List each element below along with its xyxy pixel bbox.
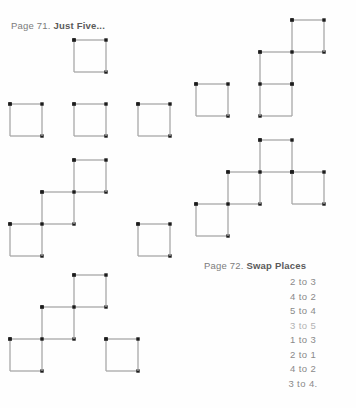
match-head xyxy=(226,82,229,85)
heading-page-72-title: Swap Places xyxy=(246,260,306,271)
match-head xyxy=(258,138,261,141)
swap-list-item: 1 to 3 xyxy=(255,333,351,348)
match-head xyxy=(72,158,75,161)
heading-page-71: Page 71. Just Five... xyxy=(11,20,105,31)
swap-list-item: 4 to 2 xyxy=(255,290,351,305)
heading-page-72: Page 72. Swap Places xyxy=(204,260,306,271)
figure-middle-left-diagonal xyxy=(10,160,190,270)
heading-page-71-title: Just Five... xyxy=(53,20,105,31)
match-head xyxy=(290,82,293,85)
swap-list-item: 3 to 5 xyxy=(255,319,351,334)
swap-list-item: 5 to 4 xyxy=(255,304,351,319)
figure-bottom-left-diagonal xyxy=(10,275,190,395)
match-head xyxy=(104,158,107,161)
match-head xyxy=(40,222,43,225)
match-head xyxy=(72,102,75,105)
match-head xyxy=(194,82,197,85)
match-head xyxy=(72,305,75,308)
match-head xyxy=(168,102,171,105)
match-head xyxy=(290,18,293,21)
match-head xyxy=(194,202,197,205)
match-head xyxy=(8,337,11,340)
match-head xyxy=(226,202,229,205)
match-head xyxy=(136,102,139,105)
match-head xyxy=(8,222,11,225)
match-head xyxy=(104,337,107,340)
match-head xyxy=(136,222,139,225)
match-head xyxy=(168,222,171,225)
match-head xyxy=(258,82,261,85)
match-head xyxy=(104,38,107,41)
swap-list-item: 3 to 4. xyxy=(255,377,351,392)
match-head xyxy=(258,170,261,173)
figure-top-right-staircase xyxy=(196,20,356,145)
match-head xyxy=(322,170,325,173)
match-head xyxy=(40,190,43,193)
heading-page-72-lead: Page 72. xyxy=(204,260,244,271)
match-head xyxy=(72,273,75,276)
match-head xyxy=(290,50,293,53)
match-head xyxy=(258,50,261,53)
match-head xyxy=(8,102,11,105)
match-head xyxy=(72,190,75,193)
heading-page-71-lead: Page 71. xyxy=(11,20,51,31)
match-head xyxy=(290,138,293,141)
swap-list-item: 4 to 2 xyxy=(255,362,351,377)
match-head xyxy=(40,305,43,308)
scanned-page: Page 71. Just Five... Page 72. Swap Plac… xyxy=(0,0,356,408)
swap-list-item: 2 to 3 xyxy=(255,275,351,290)
match-head xyxy=(290,170,293,173)
match-head xyxy=(40,337,43,340)
match-head xyxy=(322,18,325,21)
figure-top-left-plus xyxy=(10,40,190,145)
figure-middle-right-branch xyxy=(196,140,356,260)
swap-places-list: 2 to 34 to 25 to 43 to 51 to 32 to 14 to… xyxy=(255,275,351,391)
swap-list-item: 2 to 1 xyxy=(255,348,351,363)
match-head xyxy=(72,38,75,41)
match-head xyxy=(104,273,107,276)
match-head xyxy=(136,337,139,340)
match-head xyxy=(40,102,43,105)
match-head xyxy=(226,170,229,173)
match-head xyxy=(104,102,107,105)
